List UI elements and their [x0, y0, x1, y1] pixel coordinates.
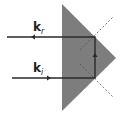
label-kr-main: k	[33, 20, 41, 34]
label-ki-main: k	[33, 61, 41, 75]
label-incident-wavevector: ki	[33, 61, 43, 77]
prism-triangle	[62, 4, 116, 111]
label-kr-sub: r	[41, 27, 44, 36]
prism-diagram	[0, 0, 124, 117]
arrow-incident-icon	[47, 76, 51, 81]
label-ki-sub: i	[41, 68, 43, 77]
label-reflected-wavevector: kr	[33, 20, 44, 36]
